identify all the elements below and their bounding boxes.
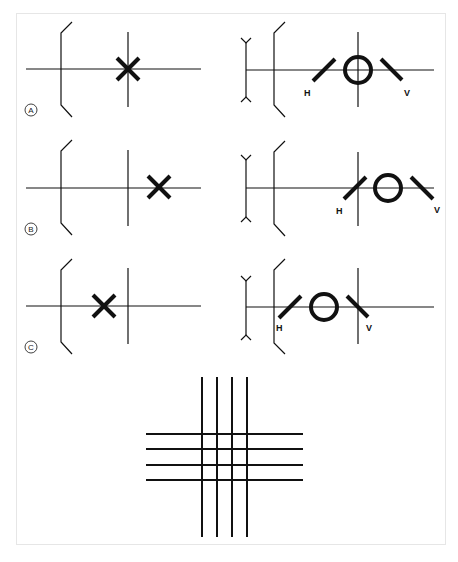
optics-diagram: A B C H V H V H V [0,0,458,562]
panel-label-a: A [28,106,34,115]
h-label-a: H [304,88,311,98]
panel-c-right [241,259,434,354]
panel-label-b: B [28,225,33,234]
v-label-a: V [404,88,410,98]
panel-a-right [241,22,434,117]
panel-b-left [26,140,201,235]
h-label-c: H [276,323,283,333]
concave-lens-icon [241,276,251,340]
panel-a-left [26,22,201,117]
grid-pattern [146,377,303,537]
v-label-c: V [366,323,372,333]
panel-label-c: C [28,343,34,352]
x-mark-icon [148,176,170,198]
v-label-b: V [434,205,440,215]
panel-b-right [241,141,434,236]
panel-c-left [26,259,201,354]
h-label-b: H [336,206,343,216]
